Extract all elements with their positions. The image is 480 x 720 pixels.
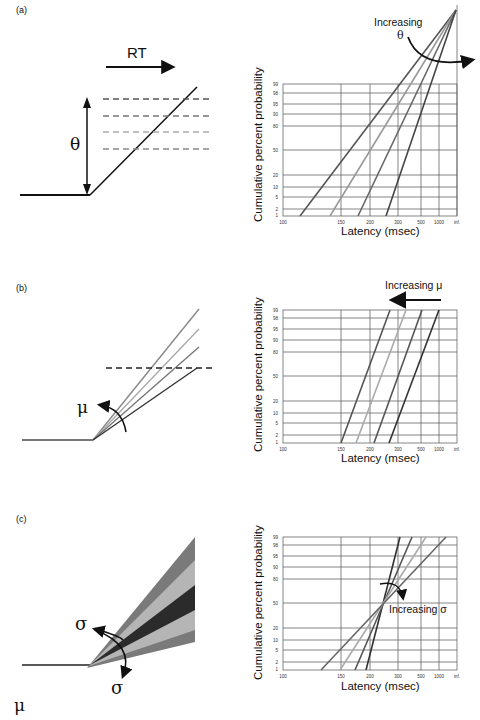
sigma-top-label: σ (75, 613, 87, 634)
theta-label: θ (70, 134, 80, 154)
panel-b-diagram (22, 309, 212, 440)
svg-text:50: 50 (273, 374, 279, 379)
y-axis-label-c: Cumulative percent probability (252, 525, 264, 680)
svg-text:10: 10 (273, 638, 279, 643)
svg-text:1000: 1000 (434, 447, 445, 452)
svg-text:1000: 1000 (434, 674, 445, 679)
svg-text:2: 2 (275, 660, 278, 665)
svg-text:95: 95 (273, 327, 279, 332)
svg-text:90: 90 (273, 565, 279, 570)
svg-text:1000: 1000 (434, 220, 445, 225)
svg-text:99: 99 (273, 82, 279, 87)
svg-text:99: 99 (273, 535, 279, 540)
svg-text:98: 98 (273, 316, 279, 321)
svg-text:inf.: inf. (454, 220, 460, 225)
x-axis-label-a: Latency (msec) (341, 225, 420, 237)
svg-text:inf.: inf. (454, 674, 460, 679)
increasing-theta-text: Increasing (374, 16, 422, 28)
svg-text:150: 150 (337, 674, 345, 679)
svg-text:100: 100 (279, 674, 287, 679)
increasing-sigma-text: Increasing σ (389, 603, 447, 615)
svg-text:98: 98 (273, 91, 279, 96)
svg-text:50: 50 (273, 601, 279, 606)
y-axis-label-b: Cumulative percent probability (252, 297, 264, 452)
mu-bottom-label: μ (14, 695, 25, 715)
panel-a-lines (300, 10, 456, 216)
panel-a-diagram (20, 67, 210, 195)
svg-text:10: 10 (273, 185, 279, 190)
svg-text:80: 80 (273, 350, 279, 355)
svg-text:80: 80 (273, 124, 279, 129)
svg-text:50: 50 (273, 148, 279, 153)
svg-text:20: 20 (273, 173, 279, 178)
sigma-bottom-label: σ (111, 677, 123, 698)
svg-text:inf.: inf. (454, 447, 460, 452)
rt-label: RT (127, 44, 147, 61)
increasing-mu-text: Increasing μ (385, 279, 442, 291)
panel-b-label: (b) (16, 283, 27, 293)
svg-text:95: 95 (273, 554, 279, 559)
panel-a-ticks: 99 98 95 90 80 50 20 10 5 2 1 100 150 20… (273, 82, 460, 225)
svg-text:5: 5 (275, 195, 278, 200)
svg-text:20: 20 (273, 626, 279, 631)
increasing-theta-symbol: θ (397, 29, 404, 42)
svg-text:100: 100 (279, 220, 287, 225)
svg-text:1: 1 (275, 213, 278, 218)
mu-label: μ (77, 397, 88, 417)
svg-text:10: 10 (273, 411, 279, 416)
svg-text:80: 80 (273, 577, 279, 582)
svg-text:99: 99 (273, 308, 279, 313)
y-axis-label-a: Cumulative percent probability (252, 67, 264, 222)
svg-text:98: 98 (273, 543, 279, 548)
svg-text:90: 90 (273, 112, 279, 117)
svg-text:1: 1 (275, 667, 278, 672)
svg-text:2: 2 (275, 433, 278, 438)
svg-text:100: 100 (279, 447, 287, 452)
x-axis-label-b: Latency (msec) (341, 452, 420, 464)
panel-a-chart (283, 5, 457, 216)
svg-text:5: 5 (275, 648, 278, 653)
svg-text:95: 95 (273, 102, 279, 107)
svg-text:200: 200 (366, 674, 374, 679)
svg-text:1: 1 (275, 440, 278, 445)
svg-text:5: 5 (275, 421, 278, 426)
x-axis-label-c: Latency (msec) (341, 680, 420, 692)
svg-text:500: 500 (417, 674, 425, 679)
svg-text:90: 90 (273, 338, 279, 343)
panel-c-label: (c) (16, 514, 27, 524)
panel-c-diagram (22, 537, 195, 676)
svg-text:20: 20 (273, 399, 279, 404)
svg-text:300: 300 (394, 674, 402, 679)
svg-text:2: 2 (275, 207, 278, 212)
